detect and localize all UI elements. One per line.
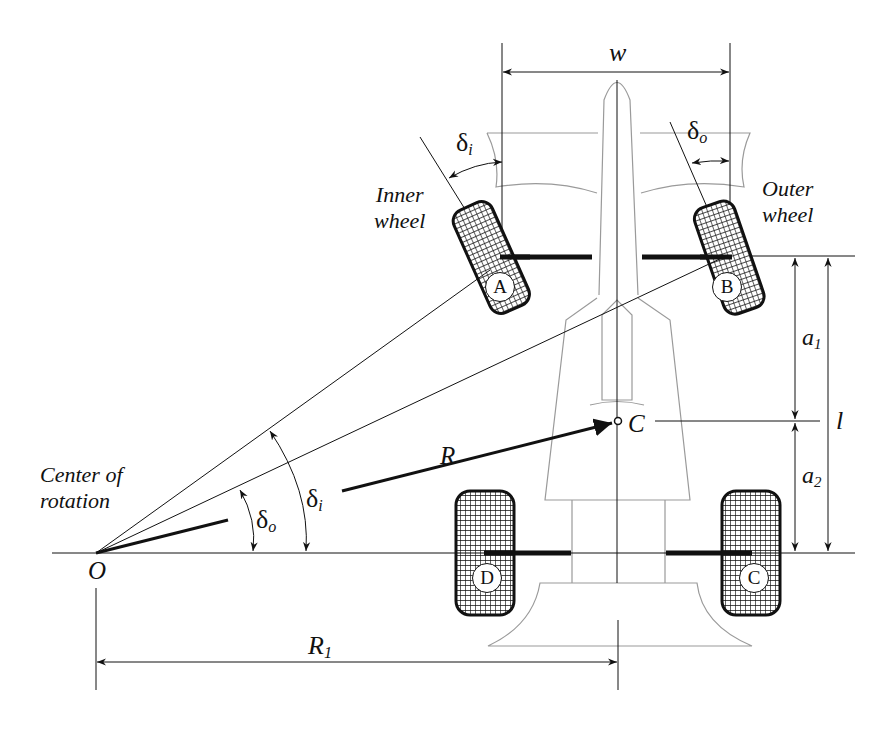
steering-diagram — [0, 0, 893, 734]
delta-i-bottom-label: δi — [306, 486, 323, 514]
wheel-D-badge: D — [472, 563, 502, 593]
r1-label: R1 — [308, 633, 332, 661]
longitudinal-dimensions — [795, 258, 828, 551]
rear-wing — [488, 583, 752, 646]
nose-cone — [599, 83, 638, 296]
wheel-B-badge: B — [712, 272, 742, 302]
vehicle-body — [487, 83, 752, 647]
mass-center-label: C — [628, 411, 645, 436]
radius-arrow — [96, 423, 612, 553]
radial-lines — [96, 256, 726, 553]
a1-label: a1 — [802, 325, 821, 352]
inner-wheel-label: Innerwheel — [374, 182, 425, 234]
r1-dimension — [96, 588, 618, 690]
front-wing — [487, 133, 750, 193]
delta-i-top-label: δi — [456, 130, 473, 158]
wheel-C-badge: C — [739, 563, 769, 593]
origin-label: O — [88, 558, 106, 583]
width-label: w — [609, 40, 626, 66]
rear-body — [572, 500, 665, 583]
outer-wheel-label: Outerwheel — [762, 176, 813, 228]
center-of-rotation-label: Center ofrotation — [40, 462, 123, 514]
delta-o-top-label: δo — [687, 118, 707, 146]
wheel-A-badge: A — [485, 272, 515, 302]
wheelbase-label: l — [836, 408, 843, 434]
radius-label: R — [440, 443, 455, 468]
mass-center-point — [615, 418, 622, 425]
a2-label: a2 — [802, 463, 821, 490]
delta-o-bottom-label: δo — [256, 507, 276, 535]
